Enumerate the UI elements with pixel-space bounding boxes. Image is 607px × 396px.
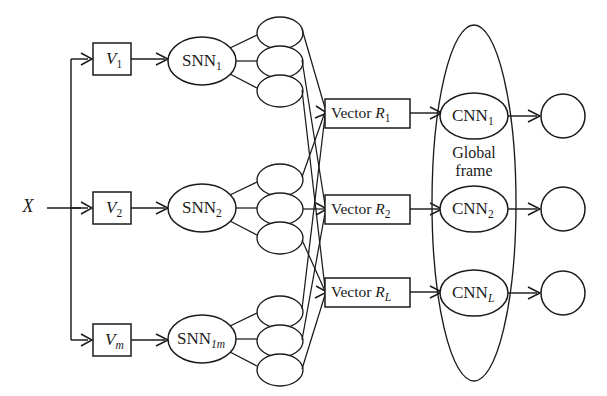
fan-line-g1-c — [230, 74, 257, 88]
feature-ellipse-3-3[interactable] — [257, 354, 303, 386]
snn-node-1-label: SNN1 — [182, 51, 222, 72]
cross-line-g1-2-to-r2 — [302, 60, 325, 205]
feature-ellipse-2-1[interactable] — [257, 164, 303, 196]
feature-ellipse-2-3[interactable] — [257, 222, 303, 254]
output-node-1[interactable] — [541, 94, 585, 138]
cnn-node-1-label: CNN1 — [452, 106, 494, 127]
input-bus-group — [47, 53, 92, 346]
feature-ellipse-group — [257, 17, 303, 386]
feature-ellipse-1-2[interactable] — [257, 46, 303, 78]
fan-line-g2-c — [230, 221, 257, 235]
fan-line-g3-c — [230, 352, 257, 366]
architecture-diagram: X V1 V2 Vm SNN1 SNN2 — [0, 0, 607, 396]
fan-line-g2-a — [230, 182, 257, 195]
input-label-x: X — [22, 196, 35, 216]
cross-line-g1-1-to-r1 — [302, 29, 325, 108]
output-node-3[interactable] — [541, 271, 585, 315]
v-to-snn-connectors — [131, 53, 168, 346]
feature-ellipse-3-2[interactable] — [257, 325, 303, 357]
vector-to-cnn-connectors — [410, 107, 442, 298]
feature-to-vector-crossings — [302, 29, 327, 369]
global-frame-label-line1: Global — [452, 144, 496, 161]
output-node-2[interactable] — [541, 187, 585, 231]
global-frame-label-line2: frame — [455, 162, 492, 179]
fan-line-g1-a — [230, 35, 257, 48]
global-frame-label: Global frame — [452, 144, 496, 179]
cnn-node-2-label: CNN2 — [452, 199, 494, 220]
cross-line-g3-3-to-rl — [302, 295, 325, 369]
output-node-group — [541, 94, 585, 315]
fan-line-g3-a — [230, 313, 257, 326]
diagram-canvas: X V1 V2 Vm SNN1 SNN2 — [0, 0, 607, 396]
feature-ellipse-3-1[interactable] — [257, 296, 303, 328]
feature-ellipse-1-3[interactable] — [257, 75, 303, 107]
vector-box-labels: Vector R1 Vector R2 Vector RL — [331, 104, 391, 303]
feature-ellipse-1-1[interactable] — [257, 17, 303, 49]
snn-node-2-label: SNN2 — [182, 198, 222, 219]
cross-line-g1-3-to-rl — [302, 90, 325, 288]
feature-ellipse-2-2[interactable] — [257, 193, 303, 225]
